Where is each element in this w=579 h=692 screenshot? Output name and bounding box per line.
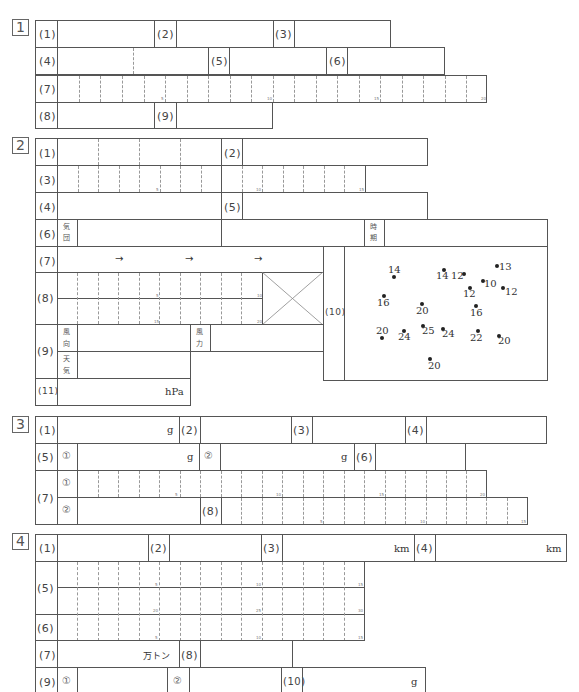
s4-q6-answer-grid[interactable] (58, 615, 363, 641)
s4-q9-sub1-label: ① (62, 675, 71, 686)
s4-q10-unit: g (411, 676, 417, 687)
s4-q5-label: (5) (37, 582, 54, 595)
s4-q5-mark-20: 20 (153, 608, 158, 613)
s4-q5-mark-30: 30 (358, 608, 363, 613)
s4-q1-answer[interactable] (58, 535, 148, 561)
s4-q1-label: (1) (39, 542, 56, 555)
s4-q9-sub2-label: ② (173, 675, 182, 686)
s4-q5-mark-15: 15 (358, 582, 363, 587)
s4-q9-sub2-answer[interactable] (190, 668, 281, 692)
s4-q8-label: (8) (181, 649, 198, 662)
s4-q5-answer-grid[interactable] (58, 562, 363, 614)
s4-q10-answer[interactable] (303, 668, 425, 692)
s4-q9-sub1-answer[interactable] (78, 668, 167, 692)
s4-q5-mark-10: 10 (256, 582, 261, 587)
s4-q7-unit: 万トン (143, 649, 170, 662)
s4-q8-answer[interactable] (201, 641, 292, 667)
s4-q6-label: (6) (37, 622, 54, 635)
s4-q7-label: (7) (39, 649, 56, 662)
s4-q4-label: (4) (416, 542, 433, 555)
section-4: (1) (2) (3) km (4) km (5) (6) 5 10 15 20… (0, 0, 579, 692)
s4-q4-unit: km (546, 543, 562, 554)
s4-q3-label: (3) (263, 542, 280, 555)
s4-q2-label: (2) (150, 542, 167, 555)
s4-q3-unit: km (394, 543, 410, 554)
s4-q5-mark-25: 25 (256, 608, 261, 613)
s4-q2-answer[interactable] (170, 535, 261, 561)
s4-q5-mark-5: 5 (155, 582, 158, 587)
s4-q9-label: (9) (39, 676, 56, 689)
